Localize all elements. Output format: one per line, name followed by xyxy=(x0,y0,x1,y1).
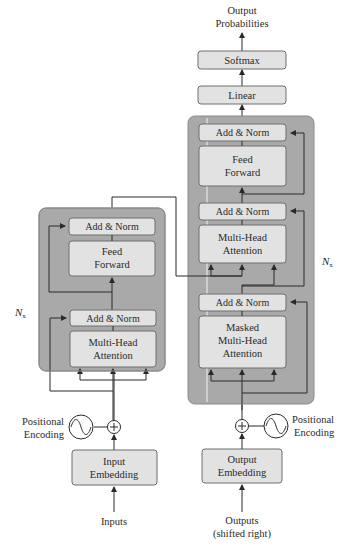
output-embedding-label-1: Output xyxy=(227,454,256,465)
encoder-attention-label-2: Attention xyxy=(93,350,133,361)
decoder-positional-encoding-label-1: Positional xyxy=(292,414,334,425)
decoder-cross-attention-label-2: Attention xyxy=(223,245,263,256)
decoder-add-norm-middle-label: Add & Norm xyxy=(216,206,270,217)
outputs-shifted-label: (shifted right) xyxy=(213,528,272,540)
encoder-feed-forward-label-2: Forward xyxy=(94,259,130,270)
masked-attention-label-3: Attention xyxy=(223,348,263,359)
decoder-repeat-label: Nx xyxy=(321,255,333,269)
transformer-architecture-diagram: Output Probabilities Softmax Linear Add … xyxy=(0,0,350,552)
encoder-positional-encoding-label-1: Positional xyxy=(22,416,64,427)
linear-label: Linear xyxy=(228,90,256,101)
decoder-add-norm-bottom-label: Add & Norm xyxy=(216,297,270,308)
encoder-add-norm-top-label: Add & Norm xyxy=(85,221,139,232)
masked-attention-label-2: Multi-Head xyxy=(218,335,268,346)
masked-attention-label-1: Masked xyxy=(226,322,260,333)
input-embedding-label-2: Embedding xyxy=(90,469,139,480)
encoder-repeat-label: Nx xyxy=(14,306,26,320)
encoder-add-norm-bottom-label: Add & Norm xyxy=(86,313,140,324)
decoder-feed-forward-label-2: Forward xyxy=(225,167,261,178)
decoder-feed-forward xyxy=(199,146,286,186)
decoder-cross-attention xyxy=(199,225,286,263)
decoder-add-norm-top-label: Add & Norm xyxy=(216,127,270,138)
softmax-label: Softmax xyxy=(224,55,260,66)
encoder-attention-label-1: Multi-Head xyxy=(89,337,139,348)
encoder-feed-forward-label-1: Feed xyxy=(102,246,123,257)
input-embedding-label-1: Input xyxy=(103,456,125,467)
encoder-positional-encoding-label-2: Encoding xyxy=(24,429,65,440)
output-probabilities-label-2: Probabilities xyxy=(215,18,268,29)
outputs-label: Outputs xyxy=(225,515,258,526)
output-embedding-label-2: Embedding xyxy=(218,467,267,478)
output-probabilities-label: Output xyxy=(227,5,256,16)
decoder-cross-attention-label-1: Multi-Head xyxy=(218,232,268,243)
inputs-label: Inputs xyxy=(101,516,127,527)
decoder-positional-encoding-label-2: Encoding xyxy=(294,427,335,438)
decoder-feed-forward-label-1: Feed xyxy=(232,154,253,165)
